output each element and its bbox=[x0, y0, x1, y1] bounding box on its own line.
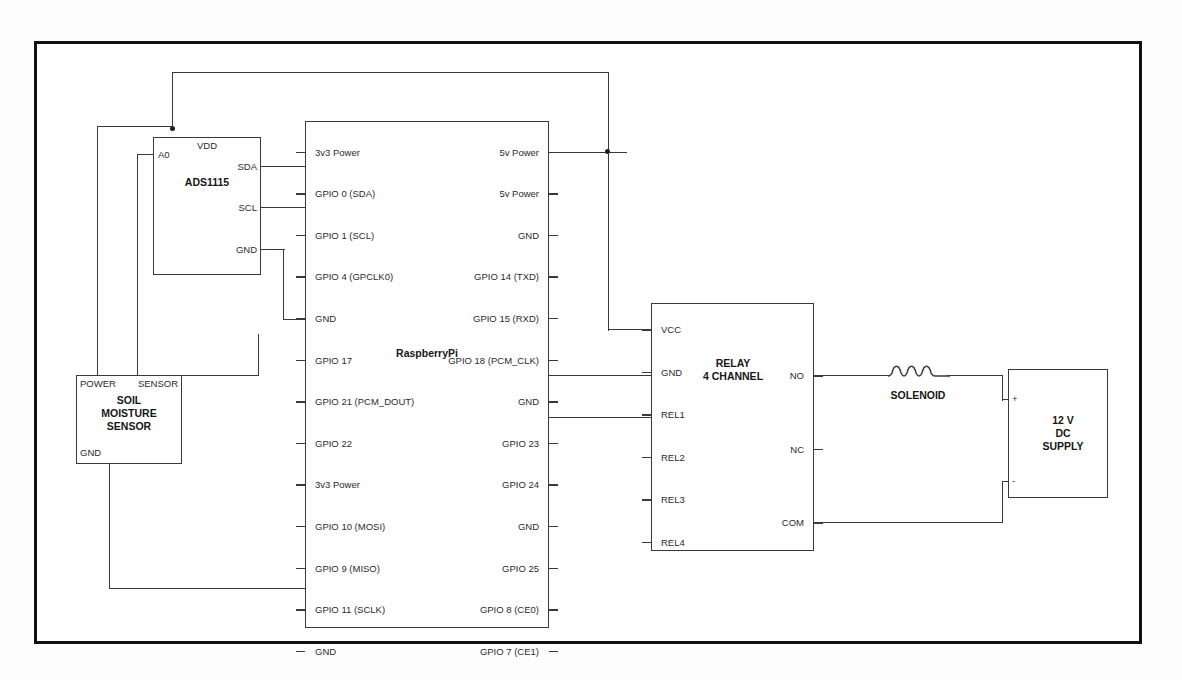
pi-pin-right-stub bbox=[549, 568, 558, 570]
relay-pin-right-stub bbox=[814, 375, 823, 377]
wire-vdd-drop bbox=[172, 72, 173, 129]
block-relay[interactable] bbox=[651, 303, 814, 551]
pi-pin-left-stub bbox=[296, 235, 305, 237]
relay-pin-left-gnd[interactable]: GND bbox=[661, 368, 682, 378]
pi-pin-right-stub bbox=[549, 609, 558, 611]
ads1115-title: ADS1115 bbox=[185, 176, 229, 189]
pi-pin-right-gpio-7-ce1[interactable]: GPIO 7 (CE1) bbox=[480, 647, 539, 657]
relay-pin-left-stub bbox=[642, 414, 651, 416]
relay-pin-left-stub bbox=[642, 372, 651, 374]
wire-pignd-relaygnd bbox=[545, 375, 652, 376]
pi-pin-left-gpio-11-sclk[interactable]: GPIO 11 (SCLK) bbox=[315, 605, 385, 615]
relay-pin-left-rel1[interactable]: REL1 bbox=[661, 410, 685, 420]
wire-a0-down bbox=[137, 154, 138, 376]
pi-pin-left-gpio-17[interactable]: GPIO 17 bbox=[315, 356, 352, 366]
wire-no-to-coil bbox=[814, 375, 890, 376]
pi-pin-left-gpio-1-scl[interactable]: GPIO 1 (SCL) bbox=[315, 231, 374, 241]
ads1115-pin-sda: SDA bbox=[237, 162, 257, 172]
pi-pin-right-gpio-8-ce0[interactable]: GPIO 8 (CE0) bbox=[480, 605, 539, 615]
pi-pin-right-stub bbox=[549, 360, 558, 362]
soil-title-line3: SENSOR bbox=[107, 420, 151, 433]
pi-pin-right-gpio-23[interactable]: GPIO 23 bbox=[502, 439, 539, 449]
pi-pin-left-3v3-power[interactable]: 3v3 Power bbox=[315, 480, 360, 490]
wire-supply-plus-drop bbox=[1002, 375, 1003, 401]
pi-pin-right-stub bbox=[549, 484, 558, 486]
ads1115-pin-gnd: GND bbox=[236, 245, 257, 255]
pi-pin-left-stub bbox=[296, 526, 305, 528]
relay-title-line1: RELAY bbox=[716, 357, 751, 370]
relay-pin-left-rel3[interactable]: REL3 bbox=[661, 495, 685, 505]
soil-pin-power: POWER bbox=[80, 379, 116, 389]
wire-sensorgnd-down bbox=[109, 464, 110, 589]
pi-pin-right-stub bbox=[549, 651, 558, 653]
relay-pin-right-nc[interactable]: NC bbox=[790, 445, 804, 455]
pi-pin-right-stub bbox=[549, 276, 558, 278]
pi-pin-right-gpio-18-pcm-clk[interactable]: GPIO 18 (PCM_CLK) bbox=[448, 356, 539, 366]
wire-5v-top-rail bbox=[172, 72, 609, 73]
wire-adsgnd-h1 bbox=[261, 249, 285, 250]
supply-title-line3: SUPPLY bbox=[1042, 440, 1083, 453]
pi-pin-right-stub bbox=[549, 235, 558, 237]
pi-pin-left-stub bbox=[296, 484, 305, 486]
wire-a0-left bbox=[137, 154, 153, 155]
wire-5v-rail-down-right bbox=[608, 72, 609, 152]
pi-pin-right-stub bbox=[549, 152, 558, 154]
soil-title-line2: MOISTURE bbox=[101, 407, 156, 420]
ads1115-pin-a0: A0 bbox=[158, 150, 170, 160]
diagram-canvas: VDD A0 SDA SCL GND ADS1115 POWER SENSOR … bbox=[0, 0, 1182, 680]
pi-pin-right-gnd[interactable]: GND bbox=[518, 397, 539, 407]
solenoid-coil bbox=[888, 362, 950, 380]
pi-pin-right-gpio-25[interactable]: GPIO 25 bbox=[502, 564, 539, 574]
pi-pin-right-stub bbox=[549, 443, 558, 445]
pi-pin-left-stub bbox=[296, 568, 305, 570]
relay-pin-left-rel4[interactable]: REL4 bbox=[661, 538, 685, 548]
pi-pin-left-gnd[interactable]: GND bbox=[315, 314, 336, 324]
pi-pin-right-stub bbox=[549, 193, 558, 195]
pi-pin-left-gpio-4-gpclk0[interactable]: GPIO 4 (GPCLK0) bbox=[315, 272, 393, 282]
pi-pin-left-gpio-21-pcm-dout[interactable]: GPIO 21 (PCM_DOUT) bbox=[315, 397, 414, 407]
pi-pin-right-gnd[interactable]: GND bbox=[518, 231, 539, 241]
pi-pin-left-stub bbox=[296, 401, 305, 403]
ads1115-pin-vdd: VDD bbox=[197, 141, 217, 151]
relay-pin-left-rel2[interactable]: REL2 bbox=[661, 453, 685, 463]
pi-pin-right-gnd[interactable]: GND bbox=[518, 522, 539, 532]
pi-pin-right-5v-power[interactable]: 5v Power bbox=[499, 148, 539, 158]
supply-title-line1: 12 V bbox=[1052, 414, 1074, 427]
solenoid-label: SOLENOID bbox=[891, 389, 946, 402]
wire-coil-to-supply bbox=[947, 375, 1003, 376]
relay-pin-left-vcc[interactable]: VCC bbox=[661, 325, 681, 335]
wire-vcc-v bbox=[608, 152, 609, 331]
pi-pin-left-stub bbox=[296, 152, 305, 154]
relay-pin-left-stub bbox=[642, 329, 651, 331]
pi-pin-left-gpio-22[interactable]: GPIO 22 bbox=[315, 439, 352, 449]
diagram-border: VDD A0 SDA SCL GND ADS1115 POWER SENSOR … bbox=[34, 41, 1142, 644]
wire-power-down bbox=[97, 126, 98, 375]
pi-pin-left-stub bbox=[296, 360, 305, 362]
pi-pin-left-stub bbox=[296, 443, 305, 445]
pi-pin-left-stub bbox=[296, 193, 305, 195]
pi-pin-left-gnd[interactable]: GND bbox=[315, 647, 336, 657]
pi-pin-right-gpio-24[interactable]: GPIO 24 bbox=[502, 480, 539, 490]
soil-title-line1: SOIL bbox=[117, 394, 142, 407]
relay-pin-right-com[interactable]: COM bbox=[782, 518, 804, 528]
pi-pin-right-gpio-15-rxd[interactable]: GPIO 15 (RXD) bbox=[473, 314, 539, 324]
pi-pin-left-gpio-9-miso[interactable]: GPIO 9 (MISO) bbox=[315, 564, 380, 574]
wire-vdd-to-power-top bbox=[97, 126, 173, 127]
supply-terminal-plus: + bbox=[1012, 394, 1018, 404]
relay-pin-left-stub bbox=[642, 457, 651, 459]
pi-pin-right-gpio-14-txd[interactable]: GPIO 14 (TXD) bbox=[474, 272, 539, 282]
relay-pin-right-no[interactable]: NO bbox=[790, 371, 804, 381]
soil-pin-sensor: SENSOR bbox=[138, 379, 178, 389]
pi-pin-left-3v3-power[interactable]: 3v3 Power bbox=[315, 148, 360, 158]
pi-pin-left-gpio-10-mosi[interactable]: GPIO 10 (MOSI) bbox=[315, 522, 385, 532]
pi-pin-left-stub bbox=[296, 651, 305, 653]
relay-title-line2: 4 CHANNEL bbox=[703, 370, 763, 383]
pi-pin-right-stub bbox=[549, 318, 558, 320]
pi-pin-left-stub bbox=[296, 276, 305, 278]
relay-pin-left-stub bbox=[642, 499, 651, 501]
supply-title-line2: DC bbox=[1055, 427, 1070, 440]
wire-gpio23-rel1 bbox=[545, 417, 652, 418]
pi-pin-right-5v-power[interactable]: 5v Power bbox=[499, 189, 539, 199]
wire-adsgnd-v bbox=[283, 249, 284, 320]
pi-pin-left-gpio-0-sda[interactable]: GPIO 0 (SDA) bbox=[315, 189, 375, 199]
